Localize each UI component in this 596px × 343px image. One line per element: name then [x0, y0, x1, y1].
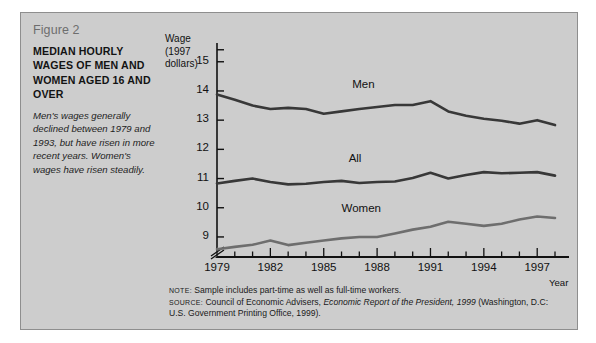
- y-tick-label: 12: [187, 141, 209, 153]
- x-tick-label: 1994: [464, 261, 504, 273]
- y-tick-label: 13: [187, 112, 209, 124]
- x-tick-label: 1979: [197, 261, 237, 273]
- figure-description: Men's wages generally declined between 1…: [33, 109, 155, 177]
- x-tick-label: 1982: [250, 261, 290, 273]
- note-label: NOTE:: [169, 287, 192, 294]
- note-text: Sample includes part-time as well as ful…: [194, 285, 401, 295]
- series-label-all: All: [349, 152, 362, 164]
- figure-footnotes: NOTE: Sample includes part-time as well …: [169, 285, 567, 320]
- source-pre: Council of Economic Advisers,: [205, 297, 321, 307]
- source-italic: Economic Report of the President, 1999: [323, 297, 475, 307]
- x-tick-label: 1985: [304, 261, 344, 273]
- source-line: SOURCE: Council of Economic Advisers, Ec…: [169, 297, 567, 320]
- figure-panel: Figure 2 MEDIAN HOURLY WAGES OF MEN AND …: [20, 12, 578, 330]
- x-tick-label: 1988: [357, 261, 397, 273]
- y-tick-label: 15: [187, 54, 209, 66]
- figure-title: MEDIAN HOURLY WAGES OF MEN AND WOMEN AGE…: [33, 44, 155, 102]
- note-line: NOTE: Sample includes part-time as well …: [169, 285, 567, 297]
- y-tick-label: 11: [187, 171, 209, 183]
- line-chart-svg: [155, 17, 575, 279]
- x-tick-label: 1997: [517, 261, 557, 273]
- series-label-men: Men: [352, 78, 374, 90]
- y-tick-label: 14: [187, 83, 209, 95]
- chart-plot-area: Wage (1997 dollars) 9101112131415 197919…: [155, 17, 575, 279]
- caption-column: Figure 2 MEDIAN HOURLY WAGES OF MEN AND …: [33, 23, 155, 177]
- y-tick-label: 10: [187, 200, 209, 212]
- y-tick-label: 9: [187, 229, 209, 241]
- series-label-women: Women: [342, 202, 381, 214]
- figure-number-label: Figure 2: [33, 23, 155, 37]
- source-label: SOURCE:: [169, 299, 203, 306]
- x-tick-label: 1991: [410, 261, 450, 273]
